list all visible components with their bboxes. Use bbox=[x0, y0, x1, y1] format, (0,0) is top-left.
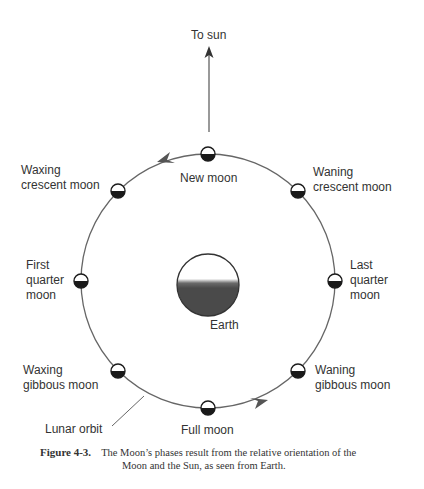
moon-waxing-gibbous bbox=[111, 364, 125, 378]
label-full-moon: Full moon bbox=[181, 423, 234, 438]
figure-caption: Figure 4-3.The Moon’s phases result from… bbox=[40, 446, 380, 472]
label-new-moon: New moon bbox=[180, 171, 237, 186]
label-first-quarter: First quarter moon bbox=[26, 258, 64, 303]
lunar-orbit-pointer bbox=[112, 396, 144, 426]
lunar-orbit-label: Lunar orbit bbox=[45, 422, 102, 437]
sun-label: To sun bbox=[191, 28, 226, 43]
moon-new bbox=[201, 147, 215, 161]
moon-waxing-crescent bbox=[111, 184, 125, 198]
label-waning-crescent: Waning crescent moon bbox=[313, 165, 392, 195]
moon-phases-diagram bbox=[0, 0, 424, 489]
moon-last-quarter bbox=[328, 274, 342, 288]
label-last-quarter: Last quarter moon bbox=[350, 258, 388, 303]
sun-direction-arrow bbox=[205, 46, 214, 132]
earth-label: Earth bbox=[210, 318, 239, 333]
orbit-direction-arrow-top bbox=[157, 152, 175, 163]
earth bbox=[177, 254, 239, 316]
label-waxing-gibbous: Waxing gibbous moon bbox=[23, 363, 98, 393]
moon-waning-gibbous bbox=[291, 364, 305, 378]
caption-line-2: Moon and the Sun, as seen from Earth. bbox=[40, 459, 380, 472]
caption-line-1: The Moon’s phases result from the relati… bbox=[101, 447, 356, 458]
figure-number: Figure 4-3. bbox=[40, 446, 91, 458]
label-waning-gibbous: Waning gibbous moon bbox=[315, 363, 390, 393]
label-waxing-crescent: Waxing crescent moon bbox=[21, 163, 100, 193]
moon-waning-crescent bbox=[291, 184, 305, 198]
moon-first-quarter bbox=[74, 274, 88, 288]
moon-full bbox=[201, 401, 215, 415]
